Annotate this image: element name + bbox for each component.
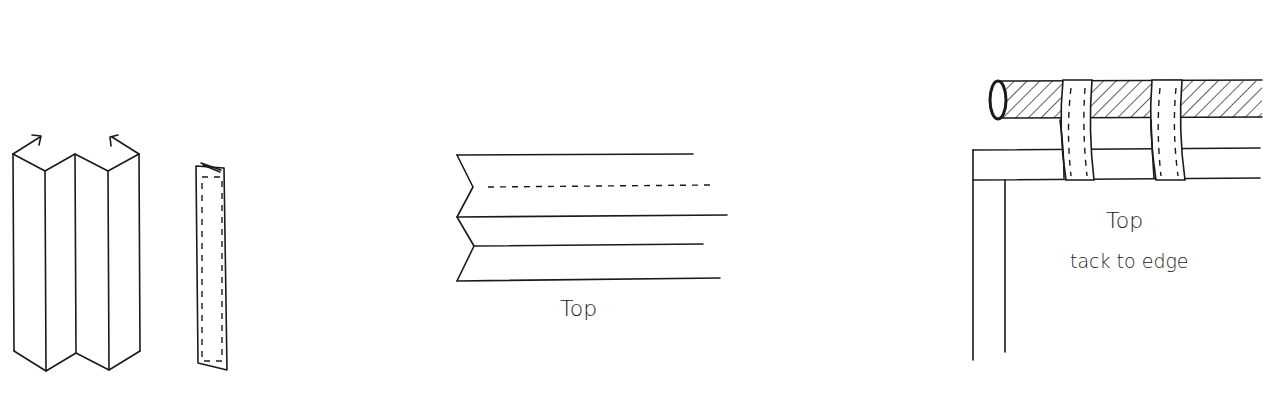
rod-mount-top-label: Top: [1106, 208, 1143, 233]
fold-arrow-right-icon: [110, 135, 139, 154]
pleat-top-label: Top: [560, 296, 597, 321]
illustration-canvas: Top Top tack to edge: [0, 0, 1282, 418]
rod-mount-note: tack to edge: [1070, 250, 1189, 272]
folded-strip-figure: [196, 163, 227, 370]
pleated-panel-figure: [13, 135, 140, 371]
pleat-top-view-figure: Top: [457, 154, 727, 321]
rod-mount-figure: Top tack to edge: [973, 80, 1262, 360]
fold-arrow-left-icon: [13, 135, 41, 154]
